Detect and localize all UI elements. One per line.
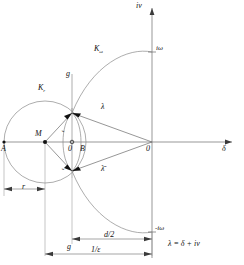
label-epsilon-upper: ε [60, 130, 65, 132]
vector-lambda [72, 113, 152, 142]
label-epsilon-lower: ε [60, 168, 65, 170]
dim-label-g: g [67, 243, 71, 251]
point-m-dot [43, 140, 47, 144]
label-minus-i-omega: -iω [155, 225, 164, 232]
dim-label-one-over-eps: 1/ε [91, 246, 100, 254]
label-k-omega-sub: ω [99, 49, 103, 54]
label-k-omega: Kω [94, 45, 103, 54]
axis-label-inu: iν [136, 2, 142, 10]
label-point-a: A [1, 145, 6, 153]
label-lambda-conj: λ̄ [101, 165, 104, 173]
label-point-b: B [80, 145, 85, 153]
axis-label-delta: δ [222, 145, 226, 153]
label-point-o: 0 [68, 145, 72, 153]
label-g-top: g [66, 70, 70, 78]
dim-label-r: r [22, 183, 25, 191]
arrowhead-lower-left [64, 165, 72, 172]
curve-komega-upper [72, 51, 152, 113]
delta-axis [4, 140, 232, 145]
equation-lambda: λ = δ + iν [168, 240, 200, 248]
label-k-r-sub: r [43, 88, 45, 93]
curve-komega-lower [72, 171, 152, 233]
inu-axis [150, 8, 155, 258]
diagram-canvas: iν δ iω -iω Kω Kr g λ λ̄ A M 0 B 0 ε ε r… [0, 0, 244, 265]
label-point-m: M [35, 130, 42, 138]
dim-label-d-half: d/2 [104, 231, 114, 239]
label-lambda: λ [101, 103, 104, 111]
arrowhead-lower-right [72, 167, 81, 172]
label-origin: 0 [146, 145, 150, 153]
label-i-omega: iω [156, 45, 163, 52]
arrowhead-upper-left [64, 113, 72, 120]
arrowhead-upper-right [72, 113, 81, 118]
label-k-r: Kr [38, 84, 45, 93]
